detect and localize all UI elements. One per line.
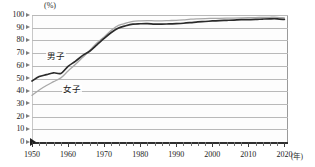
x-tick-1996 <box>198 142 199 146</box>
series-path-male <box>32 19 284 81</box>
series-label-male: 男子 <box>46 52 66 61</box>
x-tick-1992 <box>183 142 184 146</box>
x-tick-1964 <box>82 142 83 146</box>
plot-area <box>32 15 288 142</box>
x-tick-1994 <box>191 142 192 146</box>
x-tick-label-2000: 2000 <box>197 150 227 159</box>
series-lines <box>32 15 288 142</box>
y-tick-marker-70 <box>26 51 30 55</box>
x-tick-1980 <box>140 142 141 147</box>
x-tick-2010 <box>248 142 249 147</box>
y-tick-label-90: 90 <box>2 24 24 32</box>
y-tick-label-20: 20 <box>2 113 24 121</box>
x-axis-line <box>32 142 288 144</box>
x-tick-1956 <box>54 142 55 146</box>
y-tick-marker-50 <box>26 76 30 80</box>
x-tick-1978 <box>133 142 134 146</box>
x-tick-2008 <box>241 142 242 146</box>
x-tick-1958 <box>61 142 62 146</box>
x-tick-1962 <box>75 142 76 146</box>
x-tick-label-1960: 1960 <box>53 150 83 159</box>
y-tick-label-50: 50 <box>2 75 24 83</box>
x-tick-label-1970: 1970 <box>89 150 119 159</box>
y-tick-marker-60 <box>26 63 30 67</box>
x-tick-1974 <box>119 142 120 146</box>
x-tick-1990 <box>176 142 177 147</box>
x-tick-1966 <box>90 142 91 146</box>
y-tick-marker-100 <box>26 13 30 17</box>
x-tick-1954 <box>46 142 47 146</box>
y-tick-label-70: 70 <box>2 49 24 57</box>
y-tick-marker-30 <box>26 101 30 105</box>
y-tick-label-80: 80 <box>2 36 24 44</box>
x-tick-2020 <box>284 142 285 147</box>
y-tick-marker-10 <box>26 127 30 131</box>
y-tick-marker-40 <box>26 89 30 93</box>
y-tick-marker-20 <box>26 114 30 118</box>
x-tick-2000 <box>212 142 213 147</box>
x-tick-label-1990: 1990 <box>161 150 191 159</box>
y-tick-label-40: 40 <box>2 87 24 95</box>
x-tick-label-2010: 2010 <box>233 150 263 159</box>
x-tick-2018 <box>277 142 278 146</box>
x-tick-1970 <box>104 142 105 147</box>
y-tick-label-60: 60 <box>2 62 24 70</box>
x-axis-arrow-icon <box>30 138 36 146</box>
x-tick-1982 <box>147 142 148 146</box>
x-tick-1998 <box>205 142 206 146</box>
x-tick-2012 <box>256 142 257 146</box>
x-tick-label-1950: 1950 <box>17 150 47 159</box>
x-tick-1950 <box>32 142 33 147</box>
x-tick-1986 <box>162 142 163 146</box>
x-axis-unit-label: (年) <box>291 150 303 161</box>
x-tick-1968 <box>97 142 98 146</box>
x-tick-2014 <box>263 142 264 146</box>
x-tick-label-1980: 1980 <box>125 150 155 159</box>
x-tick-1960 <box>68 142 69 147</box>
x-tick-1976 <box>126 142 127 146</box>
series-label-female: 女子 <box>62 85 82 94</box>
y-tick-label-0: 0 <box>2 138 24 146</box>
x-tick-1952 <box>39 142 40 146</box>
y-tick-marker-90 <box>26 25 30 29</box>
y-tick-label-100: 100 <box>2 11 24 19</box>
y-tick-label-30: 30 <box>2 100 24 108</box>
line-chart: (%) 0102030405060708090100 1950196019701… <box>0 0 315 167</box>
x-tick-2016 <box>270 142 271 146</box>
x-tick-1984 <box>155 142 156 146</box>
x-tick-1988 <box>169 142 170 146</box>
x-tick-2002 <box>219 142 220 146</box>
x-tick-1972 <box>111 142 112 146</box>
y-tick-label-10: 10 <box>2 125 24 133</box>
x-tick-2006 <box>234 142 235 146</box>
y-axis-unit-label: (%) <box>44 1 56 10</box>
y-tick-marker-80 <box>26 38 30 42</box>
x-tick-2004 <box>227 142 228 146</box>
